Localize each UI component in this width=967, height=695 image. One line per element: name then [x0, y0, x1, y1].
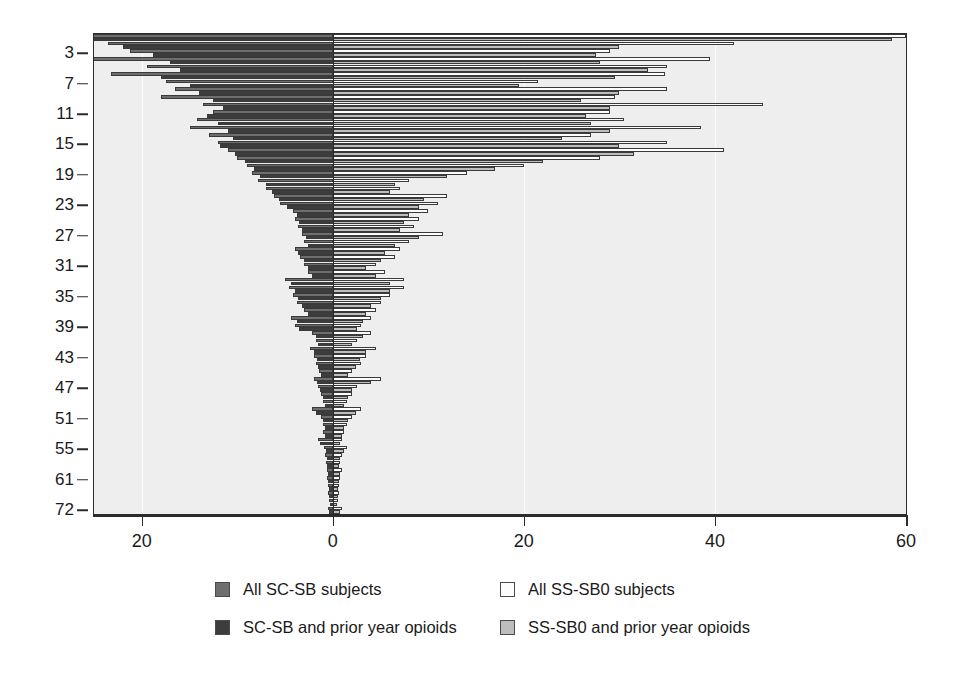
y-axis-tick-label: 27	[55, 226, 74, 246]
bar-sc-sb-opioids	[161, 76, 333, 80]
y-axis-tick-label: 61	[55, 470, 74, 490]
y-axis-tick-label: 72	[55, 500, 74, 520]
legend-item: SS-SB0 and prior year opioids	[500, 618, 750, 637]
y-axis-tick	[77, 448, 88, 450]
x-axis-tick-label: 40	[705, 531, 725, 552]
y-axis-tick-label: 35	[55, 287, 74, 307]
bar-ss-sb0-opioids	[333, 419, 348, 423]
bar-sc-sb-opioids	[297, 320, 333, 324]
chart-legend: All SC-SB subjectsAll SS-SB0 subjectsSC-…	[215, 580, 775, 650]
bar-sc-sb-opioids	[190, 84, 333, 88]
x-axis-tick	[333, 515, 335, 526]
y-axis-tick-label: 15	[55, 134, 74, 154]
bar-sc-sb-opioids	[325, 404, 333, 408]
y-axis-tick	[77, 418, 88, 420]
bar-sc-sb-opioids	[306, 236, 333, 240]
bar-ss-sb0-opioids	[333, 510, 341, 514]
bar-sc-sb-opioids	[323, 396, 333, 400]
x-axis-tick	[715, 515, 717, 526]
y-axis-tick	[77, 235, 88, 237]
y-axis-tick-label: 43	[55, 348, 74, 368]
bar-ss-sb0-opioids	[333, 99, 581, 103]
bar-sc-sb-opioids	[245, 160, 333, 164]
bar-sc-sb-opioids	[213, 99, 332, 103]
bar-sc-sb-opioids	[218, 122, 333, 126]
y-axis: 371115192327313539434751556172	[0, 33, 88, 515]
x-axis-tick	[906, 515, 908, 526]
bar-chart-figure: 371115192327313539434751556172 200204060…	[0, 0, 967, 695]
y-axis-tick-label: 51	[55, 409, 74, 429]
bar-ss-sb0-opioids	[333, 396, 348, 400]
bar-sc-sb-opioids	[316, 335, 333, 339]
bar-ss-sb0-opioids	[333, 457, 341, 461]
bar-ss-sb0-opioids	[333, 122, 591, 126]
bar-sc-sb-opioids	[320, 442, 332, 446]
bar-ss-sb0-opioids	[333, 76, 615, 80]
legend-item: SC-SB and prior year opioids	[215, 618, 457, 637]
bar-ss-sb0-opioids	[333, 175, 448, 179]
y-axis-tick	[77, 113, 88, 115]
x-axis-line	[93, 515, 907, 517]
y-axis-tick-label: 47	[55, 378, 74, 398]
y-axis-tick	[77, 144, 88, 146]
bar-sc-sb-opioids	[170, 61, 332, 65]
y-axis-tick	[77, 205, 88, 207]
legend-label: All SS-SB0 subjects	[528, 580, 675, 599]
bar-sc-sb-opioids	[291, 282, 333, 286]
bar-ss-sb0-opioids	[333, 381, 371, 385]
bar-ss-sb0-opioids	[333, 221, 405, 225]
bar-sc-sb-opioids	[220, 144, 333, 148]
x-axis-tick-label: 0	[328, 531, 338, 552]
y-axis-tick	[77, 296, 88, 298]
bar-ss-sb0-opioids	[333, 442, 341, 446]
y-axis-tick-label: 7	[65, 74, 74, 94]
bar-sc-sb-opioids	[299, 221, 332, 225]
bar-sc-sb-opioids	[93, 38, 333, 42]
bar-ss-sb0-opioids	[333, 304, 371, 308]
legend-swatch-icon	[215, 620, 230, 635]
y-axis-tick-label: 3	[65, 43, 74, 63]
gridline	[906, 34, 907, 514]
y-axis-tick	[77, 266, 88, 268]
bar-sc-sb-opioids	[279, 198, 332, 202]
bar-sc-sb-opioids	[317, 358, 333, 362]
bar-sc-sb-opioids	[260, 175, 333, 179]
x-axis-tick-label: 20	[514, 531, 534, 552]
bar-ss-sb0-opioids	[333, 335, 364, 339]
bar-sc-sb-opioids	[317, 381, 333, 385]
y-axis-tick	[77, 52, 88, 54]
zero-axis-line	[333, 34, 334, 514]
bar-ss-sb0-opioids	[333, 61, 600, 65]
legend-swatch-icon	[500, 620, 515, 635]
bar-ss-sb0-opioids	[333, 84, 519, 88]
y-axis-tick	[77, 327, 88, 329]
legend-label: All SC-SB subjects	[243, 580, 381, 599]
bar-ss-sb0-opioids	[333, 282, 390, 286]
y-axis-tick	[77, 509, 88, 511]
plot-area	[93, 33, 907, 515]
bar-sc-sb-opioids	[233, 137, 333, 141]
y-axis-tick	[77, 357, 88, 359]
x-axis-tick-label: 20	[132, 531, 152, 552]
y-axis-tick	[77, 83, 88, 85]
bar-sc-sb-opioids	[302, 304, 333, 308]
legend-label: SS-SB0 and prior year opioids	[528, 618, 750, 637]
x-axis: 200204060	[93, 515, 907, 561]
bar-sc-sb-opioids	[298, 297, 332, 301]
bar-sc-sb-opioids	[318, 343, 332, 347]
y-axis-tick-label: 39	[55, 317, 74, 337]
y-axis-tick-label: 31	[55, 256, 74, 276]
legend-item: All SC-SB subjects	[215, 580, 381, 599]
y-axis-tick-label: 11	[56, 104, 74, 124]
bar-ss-sb0-opioids	[333, 144, 620, 148]
y-axis-tick-label: 23	[55, 195, 74, 215]
y-axis-tick	[77, 479, 88, 481]
bar-ss-sb0-opioids	[333, 137, 562, 141]
bar-sc-sb-opioids	[323, 419, 333, 423]
bar-ss-sb0-opioids	[333, 358, 360, 362]
bar-sc-sb-opioids	[308, 244, 333, 248]
bar-sc-sb-opioids	[304, 259, 333, 263]
bar-ss-sb0-opioids	[333, 38, 892, 42]
legend-swatch-icon	[500, 582, 515, 597]
y-axis-tick-label: 19	[55, 165, 74, 185]
